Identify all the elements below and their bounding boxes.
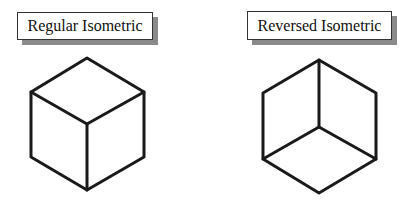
regular-cube-edge-left xyxy=(31,92,87,124)
regular-cube-edge-right xyxy=(87,92,144,124)
reversed-cube-edge-left xyxy=(263,127,319,159)
regular-isometric-cube xyxy=(31,58,144,190)
reversed-cube-edge-right xyxy=(319,127,376,159)
reversed-isometric-cube xyxy=(263,60,376,193)
cube-diagrams xyxy=(0,0,415,203)
